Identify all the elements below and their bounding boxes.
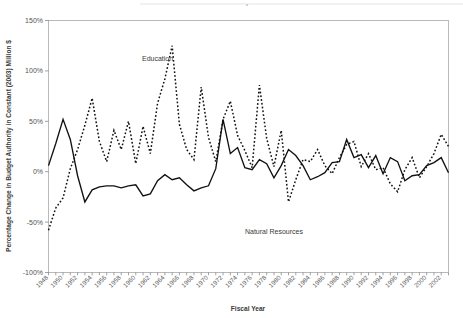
chart-container: -100%-50%0%50%100%150% 19481950195219541… <box>0 0 463 318</box>
series-annotation-natural-resources: Natural Resources <box>245 228 303 235</box>
x-tick-label: 1998 <box>398 273 413 288</box>
x-tick-label: 1966 <box>165 273 180 288</box>
x-axis-title: Fiscal Year <box>231 305 266 312</box>
x-tick-label: 1958 <box>107 273 122 288</box>
y-tick-label: 0% <box>33 168 43 175</box>
y-tick-label: 150% <box>25 17 43 24</box>
x-tick-label: 1990 <box>340 273 355 288</box>
x-tick-label: 1954 <box>78 273 93 288</box>
x-axis: 1948195019521954195619581960196219641966… <box>34 273 448 289</box>
x-tick-label: 1952 <box>63 273 78 288</box>
x-tick-label: 1976 <box>238 273 253 288</box>
x-tick-label: 1962 <box>136 273 151 288</box>
y-tick-label: 50% <box>29 118 43 125</box>
x-tick-label: 1994 <box>369 273 384 288</box>
x-tick-label: 1960 <box>122 273 137 288</box>
x-tick-label: 1968 <box>180 273 195 288</box>
y-tick-label: -100% <box>23 269 43 276</box>
x-tick-label: 1982 <box>282 273 297 288</box>
x-tick-label: 1980 <box>267 273 282 288</box>
x-tick-label: 2002 <box>427 273 442 288</box>
series-line-education <box>49 46 449 230</box>
x-tick-label: 1972 <box>209 273 224 288</box>
y-axis-title: Percentage Change in Budget Authority in… <box>5 40 13 252</box>
x-tick-label: 1978 <box>253 273 268 288</box>
line-chart: -100%-50%0%50%100%150% 19481950195219541… <box>0 0 463 318</box>
x-tick-label: 1996 <box>383 273 398 288</box>
x-tick-label: 1970 <box>194 273 209 288</box>
x-tick-label: 2000 <box>413 273 428 288</box>
y-tick-label: -50% <box>27 219 43 226</box>
series-annotation-education: Education <box>142 55 173 62</box>
x-tick-label: 1950 <box>49 273 64 288</box>
x-tick-label: 1956 <box>93 273 108 288</box>
x-tick-label: 1984 <box>296 273 311 288</box>
x-tick-label: 1964 <box>151 273 166 288</box>
x-tick-label: 1986 <box>311 273 326 288</box>
y-tick-label: 100% <box>25 67 43 74</box>
x-tick-label: 1974 <box>223 273 238 288</box>
series-layer <box>49 46 449 230</box>
scan-artifact <box>140 4 463 6</box>
x-tick-label: 1992 <box>354 273 369 288</box>
y-axis: -100%-50%0%50%100%150% <box>23 17 49 276</box>
x-tick-label: 1988 <box>325 273 340 288</box>
